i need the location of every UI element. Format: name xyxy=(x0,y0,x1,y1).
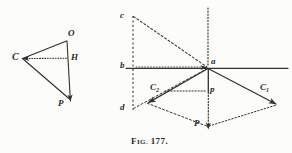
label-right-C2: C2 xyxy=(150,83,159,92)
right-diagram-group xyxy=(126,8,288,129)
label-right-c: c xyxy=(120,11,124,20)
segment-P-to-right-tip-dotted xyxy=(209,105,277,126)
label-C2-sub: 2 xyxy=(156,87,159,93)
figure-177-container: C O H P c b d a p P C2 C1 FIG. 177. xyxy=(0,0,292,153)
label-left-c: C xyxy=(12,52,19,62)
segment-o-p-force-arrow xyxy=(67,41,70,101)
segment-c-p xyxy=(23,59,70,100)
label-right-a: a xyxy=(211,57,216,66)
label-right-d: d xyxy=(120,103,125,112)
label-right-b: b xyxy=(120,61,125,70)
label-C1-sub: 1 xyxy=(266,87,269,93)
figure-caption: FIG. 177. xyxy=(131,136,168,146)
caption-number: 177. xyxy=(151,136,168,146)
label-right-C1: C1 xyxy=(260,83,269,92)
segment-c-a-dashed xyxy=(134,17,208,68)
label-left-o: O xyxy=(68,29,75,38)
left-diagram-group xyxy=(22,41,70,101)
label-left-p: P xyxy=(58,99,64,108)
figure-drawing xyxy=(0,0,292,153)
label-right-p-lower: p xyxy=(210,85,215,94)
caption-smallcaps: IG. xyxy=(137,138,148,146)
segment-c-o xyxy=(23,41,67,59)
label-right-P: P xyxy=(194,119,200,128)
label-left-h: H xyxy=(71,53,78,62)
